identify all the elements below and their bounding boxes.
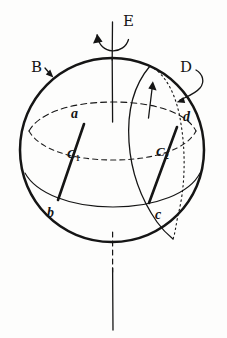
chord-c2-line bbox=[149, 127, 177, 203]
lower-latitude-circle bbox=[25, 173, 200, 207]
point-label-c: c bbox=[155, 208, 161, 222]
up-arrow-icon bbox=[148, 81, 156, 118]
sphere-rotation-diagram: E B D a d b c C1 C2 bbox=[0, 0, 227, 338]
diagram-canvas bbox=[0, 0, 227, 338]
rotation-axis-group bbox=[112, 22, 113, 330]
chord-c1-line bbox=[58, 124, 84, 200]
direction-arrowhead bbox=[148, 81, 156, 90]
direction-arrow-shaft bbox=[149, 85, 153, 118]
sphere-label-b: B bbox=[31, 60, 42, 75]
chord-label-c2-base: C bbox=[156, 144, 165, 159]
chord-label-c1: C1 bbox=[67, 147, 80, 160]
meridian-label-d: D bbox=[180, 60, 192, 75]
chord-c2 bbox=[149, 127, 177, 203]
point-label-b: b bbox=[47, 206, 54, 220]
curved-rotation-arrow-icon bbox=[93, 34, 129, 51]
rotation-arrowhead bbox=[93, 34, 103, 43]
chord-label-c2: C2 bbox=[156, 145, 169, 158]
point-label-a: a bbox=[71, 107, 78, 121]
chord-c1 bbox=[58, 124, 84, 200]
chord-label-c1-base: C bbox=[67, 146, 76, 161]
lower-latitude-front-arc bbox=[25, 173, 200, 207]
point-label-d: d bbox=[183, 110, 190, 124]
chord-label-c2-subscript: 2 bbox=[165, 152, 169, 161]
axis-label-e: E bbox=[123, 14, 134, 29]
pointer-arrow-icon bbox=[45, 68, 53, 78]
chord-label-c1-subscript: 1 bbox=[76, 154, 80, 163]
